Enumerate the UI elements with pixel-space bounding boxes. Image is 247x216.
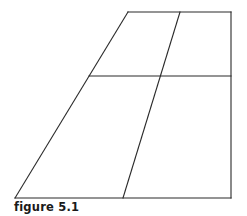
slanted-divider (123, 12, 180, 198)
trapezoid-diagram (0, 0, 247, 216)
figure-caption: figure 5.1 (14, 200, 79, 214)
outline-left-slant (15, 12, 128, 198)
